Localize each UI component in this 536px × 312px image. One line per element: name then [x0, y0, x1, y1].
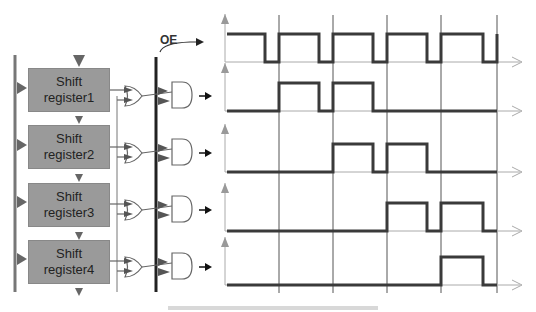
register-label: register1 — [44, 90, 95, 106]
shift-register-1: Shift register1 — [28, 68, 110, 112]
shift-register-2: Shift register2 — [28, 125, 110, 169]
register-label: register4 — [44, 262, 95, 278]
bottom-bar — [168, 306, 378, 310]
register-label: register2 — [44, 147, 95, 163]
register-label: register3 — [44, 205, 95, 221]
shift-register-3: Shift register3 — [28, 183, 110, 227]
register-label: Shift — [56, 131, 82, 147]
register-label: Shift — [56, 189, 82, 205]
register-label: Shift — [56, 74, 82, 90]
bus-arrows — [17, 82, 27, 265]
oe-label: OE — [160, 33, 177, 47]
register-label: Shift — [56, 246, 82, 262]
shift-register-4: Shift register4 — [28, 240, 110, 284]
